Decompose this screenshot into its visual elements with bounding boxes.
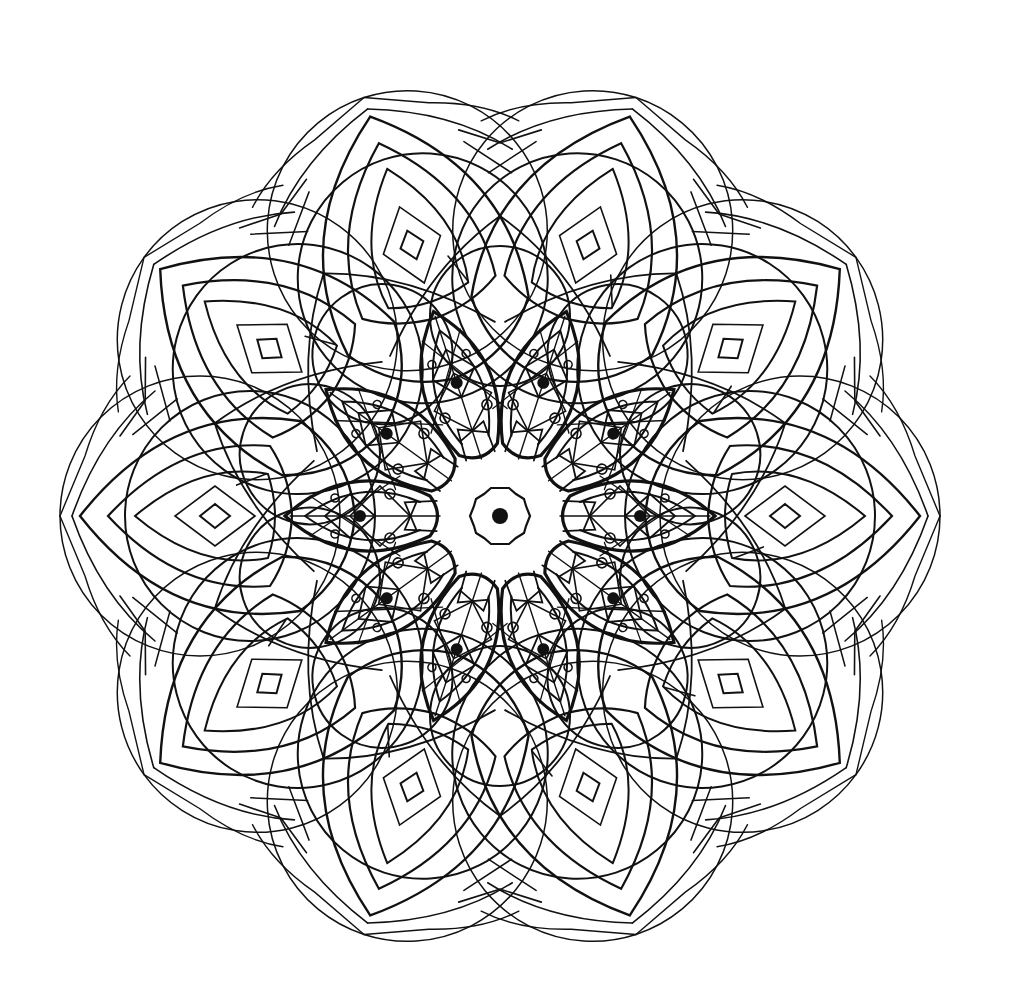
mandala-group [56,51,944,981]
center-dot [492,508,508,524]
mandala-canvas: Mandala line art [0,0,1010,995]
mandala-artwork [0,0,1010,995]
